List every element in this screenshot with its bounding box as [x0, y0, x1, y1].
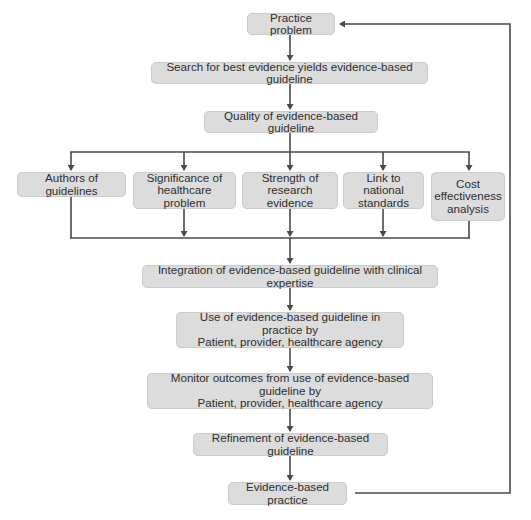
- node-integration-clinical-expertise[interactable]: Integration of evidence-based guideline …: [142, 265, 438, 288]
- node-cost-effectiveness[interactable]: Cost effectiveness analysis: [431, 172, 505, 221]
- node-monitor-outcomes[interactable]: Monitor outcomes from use of evidence-ba…: [147, 373, 433, 409]
- node-refinement-of-guideline[interactable]: Refinement of evidence-based guideline: [193, 433, 388, 456]
- node-use-in-practice[interactable]: Use of evidence-based guideline in pract…: [176, 312, 404, 348]
- node-evidence-based-practice[interactable]: Evidence-based practice: [228, 482, 347, 505]
- node-practice-problem[interactable]: Practice problem: [247, 13, 335, 35]
- node-authors-of-guidelines[interactable]: Authors of guidelines: [17, 172, 126, 197]
- feedback-loop-arrow: [340, 24, 510, 493]
- flowchart-canvas: Practice problem Search for best evidenc…: [0, 0, 531, 520]
- node-search-best-evidence[interactable]: Search for best evidence yields evidence…: [151, 62, 428, 84]
- node-strength-of-evidence[interactable]: Strength of research evidence: [242, 172, 338, 209]
- node-link-to-standards[interactable]: Link to national standards: [343, 172, 424, 209]
- node-significance-of-problem[interactable]: Significance of healthcare problem: [133, 172, 236, 209]
- node-quality-of-guideline[interactable]: Quality of evidence-based guideline: [204, 111, 378, 133]
